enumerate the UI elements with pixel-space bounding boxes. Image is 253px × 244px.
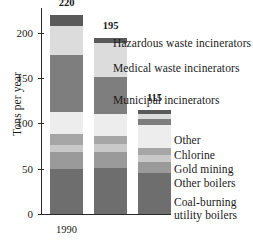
bar-segment-other[interactable]	[94, 114, 127, 137]
bar-total-1996: 195	[81, 20, 141, 31]
x-axis-line	[41, 214, 171, 215]
y-tick-label-0: 0	[28, 209, 34, 220]
bar-1990[interactable]: 220 1990	[50, 15, 83, 214]
y-tick-150: 150	[38, 78, 44, 79]
x-tick-label-1990: 1990	[37, 224, 97, 235]
bar-1999[interactable]: 115 1999	[138, 110, 171, 214]
stacked-bar-chart-figure: Tons per year 200 150 100 50 0 220 1990 …	[0, 0, 253, 244]
series-label-coal-line1: Coal-burning	[174, 196, 237, 209]
bar-segment-other-boilers[interactable]	[94, 152, 127, 168]
bar-segment-municipal-incinerators[interactable]	[50, 55, 83, 112]
series-label-medical: Medical waste incinerators	[113, 62, 240, 75]
y-tick-label-100: 100	[17, 118, 34, 129]
y-tick-label-50: 50	[22, 164, 33, 175]
bar-segment-other-boilers[interactable]	[50, 152, 83, 168]
bar-total-1990: 220	[37, 0, 97, 8]
bar-segment-gold-mining[interactable]	[50, 145, 83, 152]
bar-segment-other[interactable]	[138, 125, 171, 148]
y-tick-0: 0	[38, 214, 44, 215]
series-label-chlorine: Chlorine	[174, 149, 215, 162]
y-tick-label-150: 150	[17, 73, 34, 84]
series-label-gold-mining: Gold mining	[174, 163, 234, 176]
y-tick-100: 100	[38, 123, 44, 124]
bar-segment-coal-burning-utility-boilers[interactable]	[50, 169, 83, 214]
bar-segment-coal-burning-utility-boilers[interactable]	[94, 168, 127, 214]
bar-segment-gold-mining[interactable]	[94, 144, 127, 151]
bar-segment-hazardous-waste-incinerators[interactable]	[50, 15, 83, 26]
y-axis-title: Tons per year	[11, 56, 23, 152]
bar-segment-chlorine[interactable]	[138, 148, 171, 155]
y-tick-label-200: 200	[17, 28, 34, 39]
series-label-municipal: Municipal incinerators	[113, 94, 220, 107]
y-tick-200: 200	[38, 33, 44, 34]
bar-segment-other-boilers[interactable]	[138, 162, 171, 173]
series-label-hazardous: Hazardous waste incinerators	[113, 37, 251, 50]
bar-segment-medical-waste-incinerators[interactable]	[50, 26, 83, 55]
series-label-coal-line2: utility boilers	[174, 209, 237, 222]
bar-segment-coal-burning-utility-boilers[interactable]	[138, 173, 171, 214]
bar-segment-chlorine[interactable]	[50, 134, 83, 145]
y-tick-50: 50	[38, 169, 44, 170]
bar-segment-chlorine[interactable]	[94, 136, 127, 144]
bar-segment-other[interactable]	[50, 112, 83, 135]
bar-segment-gold-mining[interactable]	[138, 155, 171, 162]
series-label-other: Other	[174, 134, 201, 147]
y-axis-line	[41, 8, 42, 215]
series-label-other-boilers: Other boilers	[174, 177, 236, 190]
